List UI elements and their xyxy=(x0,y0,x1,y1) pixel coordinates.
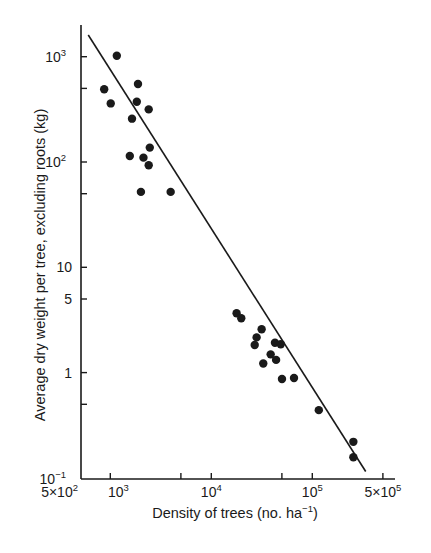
x-tick-label: 5×105 xyxy=(364,482,401,500)
y-tick-label: 10 xyxy=(56,259,72,275)
y-tick-label: 5 xyxy=(64,291,72,307)
y-axis-title: Average dry weight per tree, excluding r… xyxy=(32,109,48,421)
regression-line xyxy=(88,35,365,472)
data-point xyxy=(166,188,174,196)
y-tick-label: 102 xyxy=(45,152,66,170)
x-tick-label: 5×102 xyxy=(41,482,78,500)
y-tick-label: 103 xyxy=(45,47,66,65)
data-point xyxy=(145,105,153,113)
data-point xyxy=(107,99,115,107)
data-point xyxy=(272,356,280,364)
x-tick-label: 105 xyxy=(302,482,323,500)
data-point xyxy=(113,52,121,60)
data-point xyxy=(139,153,147,161)
data-point xyxy=(134,80,142,88)
data-point xyxy=(137,188,145,196)
data-point xyxy=(349,438,357,446)
x-tick-label: 104 xyxy=(201,482,222,500)
data-point xyxy=(290,374,298,382)
data-point xyxy=(315,406,323,414)
data-point xyxy=(278,375,286,383)
x-tick-label: 103 xyxy=(108,482,129,500)
fitted-line xyxy=(88,35,365,472)
axes xyxy=(81,25,395,479)
data-point xyxy=(237,314,245,322)
data-point xyxy=(146,143,154,151)
data-point xyxy=(257,325,265,333)
data-point xyxy=(277,340,285,348)
data-point xyxy=(126,152,134,160)
data-point xyxy=(251,341,259,349)
x-ticks: 5×1021031041055×105 xyxy=(41,473,401,500)
data-point xyxy=(128,114,136,122)
data-point xyxy=(349,453,357,461)
data-point xyxy=(145,161,153,169)
data-point xyxy=(252,333,260,341)
x-axis-title: Density of trees (no. ha−1) xyxy=(152,503,318,521)
data-point xyxy=(133,97,141,105)
y-tick-label: 1 xyxy=(64,365,72,381)
data-point xyxy=(259,359,267,367)
data-point xyxy=(100,85,108,93)
scatter-plot: 103102105110−1 5×1021031041055×105 Densi… xyxy=(0,0,431,553)
